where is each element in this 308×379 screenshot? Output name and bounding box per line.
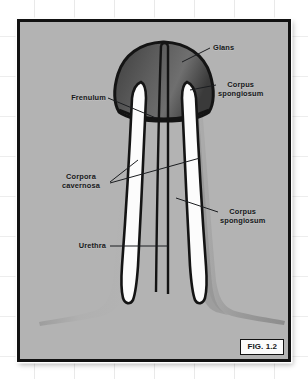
anatomy-diagram <box>20 22 288 359</box>
figure-caption-box: FIG. 1.2 <box>240 339 284 356</box>
label-urethra: Urethra <box>56 241 106 250</box>
label-frenulum: Frenulum <box>48 93 106 102</box>
label-corpus-spongiosum-lower: Corpus spongiosum <box>220 207 265 225</box>
label-corpora-cavernosa: Corpora cavernosa <box>54 172 108 190</box>
figure-caption-text: FIG. 1.2 <box>247 342 277 351</box>
label-corpus-spongiosum-upper: Corpus spongiosum <box>218 80 263 98</box>
label-glans: Glans <box>213 43 234 52</box>
label-corpora-cavernosa-line2: cavernosa <box>54 181 108 190</box>
label-corpus-spongiosum-lower-line2: spongiosum <box>220 216 265 225</box>
figure-plate: Glans Corpus spongiosum Frenulum Corpora… <box>17 19 291 362</box>
label-frenulum-text: Frenulum <box>71 93 106 102</box>
label-glans-text: Glans <box>213 43 234 52</box>
label-urethra-text: Urethra <box>79 241 106 250</box>
label-corpus-spongiosum-upper-line2: spongiosum <box>218 89 263 98</box>
label-corpus-spongiosum-upper-line1: Corpus <box>218 80 263 89</box>
label-corpus-spongiosum-lower-line1: Corpus <box>220 207 265 216</box>
label-corpora-cavernosa-line1: Corpora <box>54 172 108 181</box>
